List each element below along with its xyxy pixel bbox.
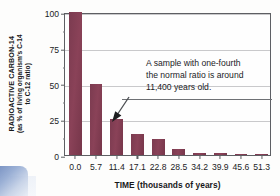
y-axis-title-sub-b: to C-12 ratio) [24, 63, 32, 104]
annotation-leader-line [122, 99, 272, 100]
x-tick-label: 45.6 [233, 163, 250, 172]
x-tick-mark [116, 155, 117, 159]
x-tick-mark [240, 155, 241, 159]
x-tick-mark [220, 155, 221, 159]
x-tick-mark [178, 155, 179, 159]
annotation-callout: A sample with one-fourth the normal rati… [146, 57, 272, 94]
scan-artifact-blue [0, 166, 28, 196]
y-axis-title: RADIOACTIVE CARBON-14 (as % of living or… [0, 0, 38, 168]
y-tick: 75 [49, 45, 65, 54]
x-tick-mark [261, 155, 262, 159]
x-tick-label: 51.3 [253, 163, 270, 172]
y-tick-mark [61, 156, 65, 157]
y-axis-title-main: RADIOACTIVE CARBON-14 [6, 36, 15, 132]
carbon-14-decay-chart: RADIOACTIVE CARBON-14 (as % of living or… [0, 0, 280, 196]
x-tick-mark [199, 155, 200, 159]
y-tick-label: 75 [49, 45, 59, 54]
y-tick: 50 [49, 81, 65, 90]
x-tick-mark [158, 155, 159, 159]
x-tick-mark [75, 155, 76, 159]
x-tick-mark [96, 155, 97, 159]
x-tick-label: 39.9 [212, 163, 229, 172]
x-axis-title: TIME (thousands of years) [64, 180, 271, 190]
x-tick-label: 0.0 [69, 163, 81, 172]
y-tick: 100 [45, 10, 65, 19]
x-tick-label: 5.7 [90, 163, 102, 172]
y-axis-title-sub-a: (as % of living organism's C-14 [15, 35, 23, 134]
y-tick: 25 [49, 117, 65, 126]
x-tick-label: 34.2 [191, 163, 208, 172]
x-tick-label: 22.8 [150, 163, 167, 172]
annotation-line-1: A sample with one-fourth [146, 57, 272, 69]
x-tick-label: 28.5 [170, 163, 187, 172]
x-tick-label: 11.4 [109, 163, 125, 172]
y-tick-label: 100 [45, 10, 59, 19]
annotation-arrow-icon [108, 95, 132, 123]
annotation-line-3: 11,400 years old. [146, 81, 272, 93]
y-tick: 0 [54, 153, 65, 162]
x-tick-label: 17.1 [129, 163, 146, 172]
annotation-line-2: the normal ratio is around [146, 69, 272, 81]
y-tick-label: 50 [49, 81, 59, 90]
y-tick-label: 25 [49, 117, 59, 126]
y-tick-label: 0 [54, 153, 59, 162]
x-tick-mark [137, 155, 138, 159]
